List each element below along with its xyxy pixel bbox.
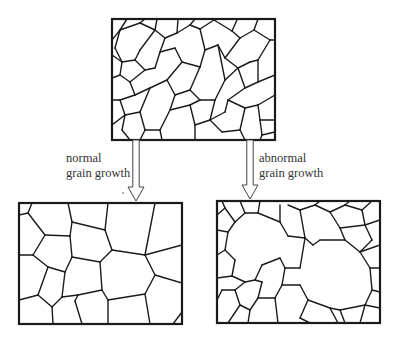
grain-boundary	[365, 220, 380, 225]
grain-boundary	[362, 201, 372, 210]
grain-boundary	[38, 267, 48, 295]
grain-boundary	[240, 30, 254, 38]
arrows	[128, 140, 258, 201]
grain-boundary	[52, 297, 62, 307]
grain-boundary	[275, 298, 278, 323]
grain-boundary	[200, 29, 205, 50]
grain-boundary	[222, 130, 240, 132]
grain-boundary	[217, 208, 225, 215]
grain-boundary	[112, 75, 120, 78]
grain-boundary	[173, 312, 182, 324]
grain-boundary	[255, 280, 262, 282]
grain-boundary	[140, 130, 145, 140]
grain-boundary	[240, 130, 245, 140]
grain-boundary	[300, 238, 305, 268]
grain-boundary	[105, 203, 108, 230]
grain-boundary	[177, 25, 190, 33]
grain-boundary	[200, 50, 205, 67]
grain-boundary	[232, 31, 240, 38]
grain-boundary	[240, 201, 245, 213]
grain-boundary	[190, 25, 200, 29]
grain-boundary	[280, 222, 288, 236]
grain-boundary	[167, 80, 175, 95]
grain-boundary	[245, 280, 255, 282]
grain-boundary	[165, 33, 177, 38]
grain-boundary	[170, 95, 175, 110]
grain-boundary	[262, 258, 280, 265]
grain-boundary	[340, 225, 365, 228]
grain-boundary	[235, 290, 240, 305]
grain-boundary	[68, 203, 72, 222]
grain-boundary	[245, 105, 258, 108]
grain-boundary	[330, 212, 340, 228]
stray-dot	[122, 192, 124, 194]
grain-boundary	[120, 62, 122, 75]
abnormal-growth-label: abnormal grain growth	[259, 151, 323, 181]
grain-boundary	[258, 105, 260, 120]
grain-boundary	[72, 222, 105, 230]
grain-boundary	[38, 295, 52, 307]
grain-boundary	[300, 205, 315, 210]
grain-boundary	[258, 282, 262, 298]
grain-boundary	[130, 82, 135, 95]
grain-boundary	[100, 262, 102, 290]
grain-boundary	[217, 250, 225, 255]
grain-boundary	[330, 205, 345, 212]
grain-boundary	[135, 60, 145, 70]
grain-boundary	[238, 68, 245, 88]
grain-boundary	[228, 305, 240, 323]
grain-boundary	[65, 257, 72, 272]
grain-boundary	[340, 305, 365, 310]
grain-boundary	[215, 80, 225, 100]
grain-boundary	[190, 67, 200, 90]
grain-boundary	[160, 38, 165, 52]
grain-boundary	[105, 230, 112, 250]
grain-boundary	[345, 240, 360, 252]
grain-boundary	[102, 290, 108, 300]
grain-boundary	[72, 257, 100, 262]
abnormal-growth-microstructure	[217, 201, 380, 323]
grain-boundary	[313, 240, 320, 245]
grain-boundary	[122, 60, 135, 62]
grain-boundary	[217, 230, 228, 232]
grain-boundary	[225, 100, 228, 112]
grain-boundary	[33, 235, 45, 255]
grain-boundary	[225, 38, 240, 58]
grain-boundary	[175, 90, 190, 95]
grain-boundary	[232, 20, 237, 31]
grain-boundary	[300, 300, 308, 318]
grain-boundary	[120, 95, 135, 100]
grain-boundary	[315, 205, 330, 212]
grain-boundary	[145, 275, 155, 294]
grain-boundary	[205, 45, 218, 50]
grain-boundary	[300, 210, 305, 238]
grain-boundary	[360, 252, 370, 268]
grain-boundary	[62, 272, 65, 297]
initial-microstructure	[112, 19, 275, 140]
grain-boundary	[275, 285, 282, 298]
grain-boundary	[160, 130, 162, 140]
grain-boundary	[100, 250, 112, 262]
grain-boundary	[200, 20, 214, 29]
grain-boundary	[48, 267, 65, 272]
grain-boundary	[70, 236, 72, 257]
grain-boundary	[235, 213, 245, 222]
grain-boundary	[305, 238, 313, 245]
grain-boundary	[225, 58, 238, 68]
panel-frame	[217, 201, 380, 323]
grain-boundary	[62, 295, 78, 297]
grain-boundary	[45, 235, 70, 236]
abnormal-label-line1: abnormal	[259, 151, 323, 166]
grain-boundary	[225, 208, 235, 222]
grain-boundary	[372, 290, 380, 292]
abnormal-growth-arrow	[242, 140, 258, 199]
grain-boundary	[262, 132, 275, 135]
grain-boundary	[135, 50, 140, 60]
grain-boundary	[250, 298, 258, 310]
grain-boundary	[160, 110, 170, 130]
grain-boundary	[225, 68, 238, 80]
grain-boundary	[190, 100, 200, 105]
grain-boundary	[130, 70, 145, 82]
grain-boundary	[235, 282, 245, 290]
grain-boundary	[308, 300, 330, 308]
